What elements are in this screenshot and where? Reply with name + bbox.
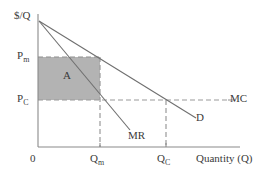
price-label-pc-subscript: C — [23, 98, 28, 107]
demand-label: D — [196, 112, 204, 123]
quantity-label-qm: Qm — [90, 153, 104, 167]
quantity-label-qc-base: Q — [157, 152, 165, 164]
origin-label: 0 — [30, 153, 36, 164]
region-label-a: A — [63, 70, 71, 81]
price-label-pm: Pm — [17, 50, 29, 64]
marginal-revenue-label: MR — [128, 130, 145, 141]
monopoly-diagram-figure: $/Q Pm PC 0 Qm QC Quantity (Q) MC D MR A — [0, 0, 271, 180]
quantity-label-qc: QC — [157, 153, 170, 167]
y-axis-label: $/Q — [14, 10, 31, 21]
price-label-pm-subscript: m — [23, 55, 29, 64]
quantity-label-qm-base: Q — [90, 152, 98, 164]
quantity-label-qm-subscript: m — [98, 158, 104, 167]
quantity-label-qc-subscript: C — [165, 158, 170, 167]
price-label-pc: PC — [17, 93, 28, 107]
x-axis-label: Quantity (Q) — [196, 153, 253, 164]
marginal-cost-label: MC — [230, 93, 247, 104]
